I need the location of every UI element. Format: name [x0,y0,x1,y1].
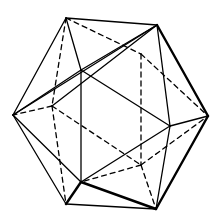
visible-edge [13,70,81,115]
hidden-edge [52,106,141,165]
visible-edge [157,25,170,126]
visible-edge [157,25,208,116]
visible-edge [66,18,81,70]
visible-edge [66,18,157,25]
hidden-edge [141,54,208,116]
icosahedron-wireframe [0,0,221,223]
hidden-edge [81,165,141,182]
hidden-edge [141,116,208,165]
visible-edge [13,25,157,115]
hidden-edge [141,165,156,209]
visible-edge [81,70,170,126]
icosahedron-figure [0,0,221,223]
visible-edge [66,182,81,204]
